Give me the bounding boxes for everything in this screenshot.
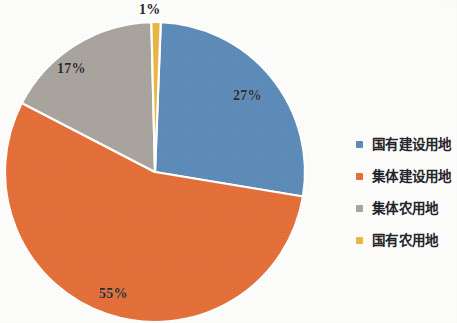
slice-label-national-agricultural-land: 1% [139, 2, 160, 18]
legend-swatch-icon [356, 205, 363, 212]
legend-item-national-construction-land: 国有建设用地 [356, 137, 452, 152]
legend-item-label: 集体农用地 [372, 202, 439, 216]
pie-slice [155, 22, 305, 196]
legend-item-national-agricultural-land: 国有农用地 [356, 233, 452, 248]
pie-chart-svg [5, 22, 305, 322]
legend-swatch-icon [356, 237, 363, 244]
pie-chart-figure: 1% 27% 17% 55% 国有建设用地 集体建设用地 集体农用地 国有农用地 [0, 0, 457, 323]
legend-item-label: 国有建设用地 [372, 138, 452, 152]
chart-legend: 国有建设用地 集体建设用地 集体农用地 国有农用地 [356, 137, 452, 248]
pie-chart [5, 22, 305, 322]
legend-swatch-icon [356, 173, 363, 180]
slice-label-collective-agricultural-land: 17% [57, 61, 86, 77]
legend-item-label: 国有农用地 [372, 234, 439, 248]
slice-label-national-construction-land: 27% [233, 88, 262, 104]
pie-slice-group [5, 22, 305, 322]
legend-item-label: 集体建设用地 [372, 170, 452, 184]
legend-item-collective-agricultural-land: 集体农用地 [356, 201, 452, 216]
slice-label-collective-construction-land: 55% [99, 286, 128, 302]
legend-item-collective-construction-land: 集体建设用地 [356, 169, 452, 184]
legend-swatch-icon [356, 141, 363, 148]
